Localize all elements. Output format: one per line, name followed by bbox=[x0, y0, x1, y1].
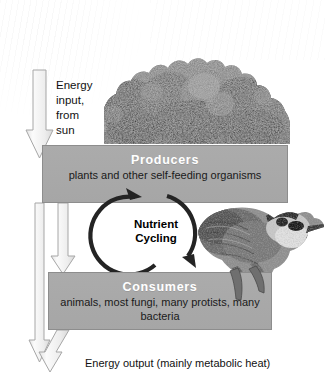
ecosystem-energy-flow-diagram: Producers plants and other self-feeding … bbox=[0, 0, 325, 388]
producers-energy-loss-arrow bbox=[29, 203, 50, 362]
producers-to-consumers-arrow bbox=[51, 203, 75, 274]
nutrient-cycle-down-arrowhead bbox=[182, 254, 196, 268]
consumers-title: Consumers bbox=[49, 279, 271, 295]
consumers-energy-loss-arrow bbox=[39, 330, 69, 372]
producers-box: Producers plants and other self-feeding … bbox=[42, 145, 288, 203]
energy-output-label: Energy output (mainly metabolic heat) bbox=[85, 356, 270, 371]
scan-artifact-rays-secondary bbox=[150, 0, 325, 60]
energy-input-label: Energy input, from sun bbox=[56, 78, 92, 138]
consumers-description: animals, most fungi, many protists, many… bbox=[49, 296, 271, 323]
producers-description: plants and other self-feeding organisms bbox=[43, 169, 287, 183]
producers-title: Producers bbox=[43, 152, 287, 168]
consumers-box: Consumers animals, most fungi, many prot… bbox=[48, 272, 272, 330]
forest-canopy-photo bbox=[104, 56, 290, 146]
nutrient-cycling-label: Nutrient Cycling bbox=[125, 217, 187, 245]
